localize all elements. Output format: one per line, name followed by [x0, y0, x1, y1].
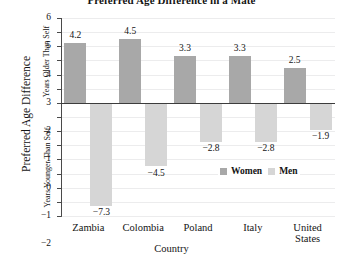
bar-label-men: −2.8	[202, 144, 219, 154]
y-axis-tick: −8	[57, 216, 61, 217]
y-axis-tick: −5	[57, 174, 61, 175]
x-axis-title: Country	[0, 243, 343, 254]
bar-women	[284, 68, 306, 103]
x-axis-category-label: Colombia	[115, 222, 171, 233]
y-axis-tick: 4	[57, 46, 61, 47]
y-axis-tick-label: 3	[46, 98, 51, 108]
y-axis-tick-label: −1	[41, 211, 51, 221]
bar-women	[174, 56, 196, 103]
bar-men	[145, 103, 167, 167]
bar-label-men: −4.5	[148, 169, 165, 179]
y-axis-tick-label: 5	[46, 42, 51, 52]
legend-label-women: Women	[231, 167, 262, 177]
y-axis-tick-label: 4	[46, 70, 51, 80]
y-axis-tick: −4	[57, 159, 61, 160]
bar-men	[310, 103, 332, 130]
bar-women	[119, 39, 141, 103]
bar-chart: Preferred Age Difference in a Mate Prefe…	[0, 0, 343, 260]
bar-men	[90, 103, 112, 206]
y-axis-tick: 2	[57, 75, 61, 76]
gridline	[62, 46, 335, 47]
legend-swatch-men-icon	[268, 168, 275, 175]
x-axis-category-label: Italy	[225, 222, 281, 233]
legend-label-men: Men	[279, 167, 297, 177]
gridline	[62, 32, 335, 33]
y-axis-title: Preferred Age Difference	[20, 39, 32, 189]
y-axis-tick: −1	[57, 117, 61, 118]
chart-legend: Women Men	[218, 166, 300, 178]
y-axis-tick: −3	[57, 145, 61, 146]
bar-label-women: 4.5	[124, 27, 136, 37]
x-axis-category-label: Poland	[170, 222, 226, 233]
legend-item-women: Women	[220, 167, 262, 177]
legend-item-men: Men	[268, 167, 297, 177]
y-axis-tick-label: 1	[46, 155, 51, 165]
y-axis-tick-label: 6	[46, 13, 51, 23]
bar-label-women: 3.3	[234, 44, 246, 54]
y-axis-tick: −6	[57, 188, 61, 189]
bar-label-women: 2.5	[289, 56, 301, 66]
bar-men	[200, 103, 222, 143]
x-axis-category-label: United States	[280, 222, 336, 244]
bar-label-women: 3.3	[179, 44, 191, 54]
bar-women	[229, 56, 251, 103]
y-axis-tick: −2	[57, 131, 61, 132]
zero-baseline	[61, 103, 335, 104]
bar-women	[64, 43, 86, 102]
bar-men	[255, 103, 277, 143]
chart-title: Preferred Age Difference in a Mate	[0, 0, 343, 6]
y-axis-tick: −7	[57, 202, 61, 203]
bar-label-men: −7.3	[93, 208, 110, 218]
y-axis-tick: 3	[57, 60, 61, 61]
y-axis-tick: 1	[57, 89, 61, 90]
gridline	[62, 18, 335, 19]
y-axis-tick-label: 2	[46, 126, 51, 136]
bar-label-men: −1.9	[312, 132, 329, 142]
legend-swatch-women-icon	[220, 168, 227, 175]
y-axis-tick: 5	[57, 32, 61, 33]
y-axis-tick: 6	[57, 18, 61, 19]
bar-label-men: −2.8	[257, 144, 274, 154]
plot-area: 6543210−1−2−3−4−5−6−7−8 4.2−7.34.5−4.53.…	[61, 18, 335, 216]
y-axis-tick-label: 0	[46, 183, 51, 193]
bar-label-women: 4.2	[69, 31, 81, 41]
x-axis-category-label: Zambia	[60, 222, 116, 233]
